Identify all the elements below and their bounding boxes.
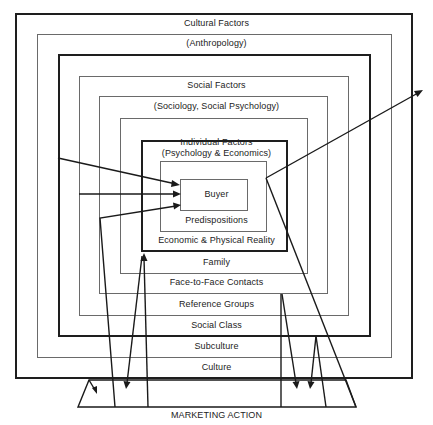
arrowhead-icon [293,381,300,389]
arrowhead-icon [308,381,315,389]
economic-reality-label: Economic & Physical Reality [0,235,433,246]
social-class-label: Social Class [0,320,433,331]
arrowhead-icon [92,386,97,394]
subculture-label: Subculture [0,341,433,352]
face-to-face-label: Face-to-Face Contacts [0,277,433,288]
cultural-factors-subtitle: (Anthropology) [0,38,433,49]
arrow-small-left [89,380,95,390]
social-factors-title: Social Factors [0,80,433,91]
family-label: Family [0,257,433,268]
arrowhead-icon [414,90,423,97]
arrowhead-icon [124,381,131,389]
reference-groups-label: Reference Groups [0,299,433,310]
culture-label: Culture [0,362,433,373]
individual-factors-title: Individual Factors [0,137,433,148]
buyer-label: Buyer [0,189,433,200]
cultural-factors-title: Cultural Factors [0,18,433,29]
predispositions-label: Predispositions [0,215,433,226]
individual-factors-subtitle: (Psychology & Economics) [0,148,433,159]
marketing-action-trapezoid [78,380,356,407]
social-factors-subtitle: (Sociology, Social Psychology) [0,101,433,112]
marketing-action-label: MARKETING ACTION [0,410,433,421]
